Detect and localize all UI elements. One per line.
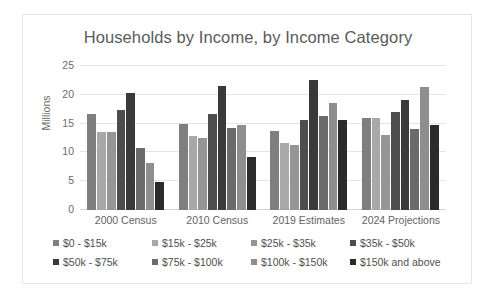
- bar[interactable]: [338, 120, 347, 210]
- bar[interactable]: [391, 112, 400, 210]
- category-label-0: 2000 Census: [87, 214, 164, 226]
- legend-label: $75k - $100k: [162, 256, 223, 268]
- bar[interactable]: [117, 110, 126, 210]
- bar[interactable]: [381, 135, 390, 210]
- legend-item[interactable]: $25k - $35k: [251, 237, 350, 249]
- legend-row: $50k - $75k$75k - $100k$100k - $150k$150…: [53, 256, 449, 268]
- y-tick-label: 20: [62, 88, 74, 100]
- category-label-1: 2010 Census: [179, 214, 256, 226]
- legend-swatch-icon: [152, 259, 158, 265]
- legend-item[interactable]: $0 - $15k: [53, 237, 152, 249]
- bar[interactable]: [309, 80, 318, 210]
- bar-group: [362, 66, 439, 210]
- bar[interactable]: [280, 143, 289, 210]
- bar[interactable]: [401, 100, 410, 210]
- category-label-3: 2024 Projections: [362, 214, 439, 226]
- bar[interactable]: [155, 182, 164, 210]
- legend-label: $35k - $50k: [360, 237, 415, 249]
- legend-swatch-icon: [251, 240, 257, 246]
- bar[interactable]: [107, 132, 116, 210]
- legend-item[interactable]: $100k - $150k: [251, 256, 350, 268]
- legend-swatch-icon: [53, 259, 59, 265]
- y-tick-label: 15: [62, 117, 74, 129]
- y-axis-title: Millions: [40, 68, 52, 158]
- legend-item[interactable]: $50k - $75k: [53, 256, 152, 268]
- bar-groups: [80, 66, 446, 210]
- bar[interactable]: [290, 145, 299, 210]
- bar-group: [270, 66, 347, 210]
- bar[interactable]: [329, 103, 338, 210]
- bar[interactable]: [362, 118, 371, 210]
- bar[interactable]: [300, 120, 309, 210]
- bar[interactable]: [420, 87, 429, 210]
- bar[interactable]: [97, 132, 106, 210]
- bar[interactable]: [189, 136, 198, 210]
- y-tick-label: 0: [68, 203, 74, 215]
- bar[interactable]: [430, 125, 439, 210]
- legend-row: $0 - $15k$15k - $25k$25k - $35k$35k - $5…: [53, 237, 449, 249]
- y-tick-label: 10: [62, 145, 74, 157]
- y-tick-label: 25: [62, 59, 74, 71]
- legend-item[interactable]: $35k - $50k: [350, 237, 449, 249]
- y-tick-label: 5: [68, 174, 74, 186]
- bar[interactable]: [146, 163, 155, 210]
- bar[interactable]: [270, 131, 279, 210]
- bar[interactable]: [87, 114, 96, 210]
- chart-legend: $0 - $15k$15k - $25k$25k - $35k$35k - $5…: [53, 237, 449, 275]
- bar[interactable]: [208, 114, 217, 210]
- legend-label: $50k - $75k: [63, 256, 118, 268]
- bar[interactable]: [410, 129, 419, 210]
- legend-swatch-icon: [53, 240, 59, 246]
- category-label-2: 2019 Estimates: [270, 214, 347, 226]
- legend-label: $0 - $15k: [63, 237, 107, 249]
- legend-item[interactable]: $75k - $100k: [152, 256, 251, 268]
- legend-label: $150k and above: [360, 256, 441, 268]
- bar[interactable]: [227, 128, 236, 210]
- legend-label: $25k - $35k: [261, 237, 316, 249]
- bar[interactable]: [126, 93, 135, 211]
- bar[interactable]: [218, 86, 227, 210]
- legend-swatch-icon: [152, 240, 158, 246]
- legend-swatch-icon: [350, 259, 356, 265]
- legend-swatch-icon: [251, 259, 257, 265]
- bar[interactable]: [319, 116, 328, 210]
- bar-group: [87, 66, 164, 210]
- bar[interactable]: [372, 118, 381, 210]
- legend-item[interactable]: $15k - $25k: [152, 237, 251, 249]
- bar[interactable]: [198, 138, 207, 210]
- chart-card: Households by Income, by Income Category…: [22, 14, 472, 284]
- legend-item[interactable]: $150k and above: [350, 256, 449, 268]
- plot-area: 0510152025: [80, 66, 446, 210]
- legend-label: $100k - $150k: [261, 256, 328, 268]
- bar[interactable]: [136, 148, 145, 210]
- bar[interactable]: [247, 157, 256, 210]
- legend-label: $15k - $25k: [162, 237, 217, 249]
- category-axis-labels: 2000 Census2010 Census2019 Estimates2024…: [80, 214, 446, 226]
- plot-wrapper: Millions 0510152025 2000 Census2010 Cens…: [23, 15, 473, 285]
- bar-group: [179, 66, 256, 210]
- bar[interactable]: [179, 124, 188, 210]
- legend-swatch-icon: [350, 240, 356, 246]
- bar[interactable]: [237, 125, 246, 210]
